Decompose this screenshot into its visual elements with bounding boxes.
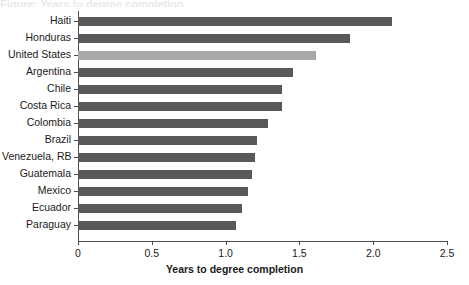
bar [78,17,392,26]
clipped-chart-title: Figure: Years to degree completion [0,0,469,7]
bar [78,119,268,128]
bar [78,187,248,196]
bar [78,204,242,213]
bar-row: Haiti [78,13,447,30]
bar-row: Guatemala [78,166,447,183]
x-axis-tick [447,241,448,245]
bar [78,136,257,145]
bar-row: Paraguay [78,217,447,234]
category-label: Brazil [2,132,78,149]
bar-chart: Figure: Years to degree completion Haiti… [0,0,469,285]
plot-area: HaitiHondurasUnited StatesArgentinaChile… [78,11,447,240]
bar [78,85,282,94]
x-axis-tick [78,241,79,245]
bar-row: Brazil [78,132,447,149]
x-axis-tick-label: 0.5 [144,247,159,259]
x-axis-tick [299,241,300,245]
bar [78,221,236,230]
x-axis-tick [226,241,227,245]
category-label: Colombia [2,115,78,132]
category-label: Costa Rica [2,98,78,115]
x-axis-tick-label: 0 [75,247,81,259]
bar [78,51,316,60]
category-label: Argentina [2,64,78,81]
bar [78,68,293,77]
bar-row: Argentina [78,64,447,81]
bar [78,102,282,111]
x-axis-tick [373,241,374,245]
x-axis-tick [152,241,153,245]
category-label: Guatemala [2,166,78,183]
category-label: United States [2,47,78,64]
category-label: Ecuador [2,200,78,217]
x-axis-line [78,241,447,242]
x-axis-tick-label: 2.5 [440,247,455,259]
bar-row: Chile [78,81,447,98]
x-axis-tick-label: 1.5 [292,247,307,259]
bar-row: Honduras [78,30,447,47]
bar [78,153,255,162]
category-label: Mexico [2,183,78,200]
category-label: Honduras [2,30,78,47]
category-label: Haiti [2,13,78,30]
category-label: Chile [2,81,78,98]
bar-row: Ecuador [78,200,447,217]
bar [78,34,350,43]
x-axis-title: Years to degree completion [0,263,469,275]
bar-row: Costa Rica [78,98,447,115]
bar-row: Mexico [78,183,447,200]
bar-row: United States [78,47,447,64]
category-label: Venezuela, RB [2,149,78,166]
category-label: Paraguay [2,217,78,234]
bar [78,170,252,179]
x-axis-tick-label: 1.0 [218,247,233,259]
x-axis-tick-label: 2.0 [366,247,381,259]
bar-row: Colombia [78,115,447,132]
bar-row: Venezuela, RB [78,149,447,166]
